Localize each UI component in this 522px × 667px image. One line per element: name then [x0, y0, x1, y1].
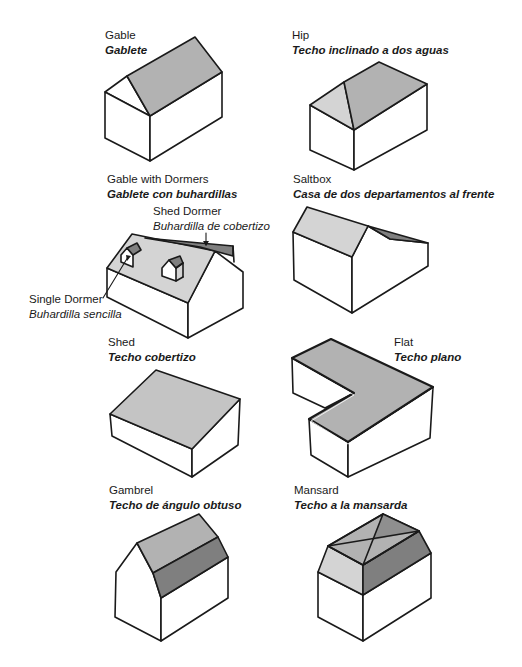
- label-gambrel-es: Techo de ángulo obtuso: [109, 498, 241, 513]
- label-shed: Shed Techo cobertizo: [108, 335, 196, 365]
- label-gable-es: Gablete: [105, 43, 147, 58]
- gable-dormers-house-illustration: [103, 233, 243, 338]
- label-shed-dormer: Shed Dormer Buhardilla de cobertizo: [153, 204, 270, 234]
- label-flat: Flat Techo plano: [394, 335, 461, 365]
- label-flat-en: Flat: [394, 335, 461, 350]
- label-gable-dormers-es: Gablete con buhardillas: [107, 187, 237, 202]
- label-single-dormer-en: Single Dormer: [29, 292, 122, 307]
- mansard-house-illustration: [318, 514, 431, 641]
- hip-house-illustration: [310, 62, 427, 170]
- label-mansard-en: Mansard: [294, 483, 407, 498]
- label-gambrel: Gambrel Techo de ángulo obtuso: [109, 483, 241, 513]
- label-shed-dormer-es: Buhardilla de cobertizo: [153, 219, 270, 234]
- saltbox-house-illustration: [293, 207, 428, 313]
- label-shed-dormer-en: Shed Dormer: [153, 204, 270, 219]
- label-hip: Hip Techo inclinado a dos aguas: [292, 28, 449, 58]
- label-single-dormer-es: Buhardilla sencilla: [29, 307, 122, 322]
- label-gable-dormers-en: Gable with Dormers: [107, 172, 237, 187]
- label-hip-en: Hip: [292, 28, 449, 43]
- label-saltbox-es: Casa de dos departamentos al frente: [293, 187, 494, 202]
- label-single-dormer: Single Dormer Buhardilla sencilla: [29, 292, 122, 322]
- label-flat-es: Techo plano: [394, 350, 461, 365]
- roof-types-diagram: [0, 0, 522, 667]
- label-saltbox-en: Saltbox: [293, 172, 494, 187]
- label-saltbox: Saltbox Casa de dos departamentos al fre…: [293, 172, 494, 202]
- label-gambrel-en: Gambrel: [109, 483, 241, 498]
- label-hip-es: Techo inclinado a dos aguas: [292, 43, 449, 58]
- label-gable-en: Gable: [105, 28, 147, 43]
- gambrel-house-illustration: [115, 514, 228, 641]
- label-gable-dormers: Gable with Dormers Gablete con buhardill…: [107, 172, 237, 202]
- label-shed-en: Shed: [108, 335, 196, 350]
- label-mansard: Mansard Techo a la mansarda: [294, 483, 407, 513]
- shed-house-illustration: [110, 370, 240, 477]
- label-shed-es: Techo cobertizo: [108, 350, 196, 365]
- label-mansard-es: Techo a la mansarda: [294, 498, 407, 513]
- label-gable: Gable Gablete: [105, 28, 147, 58]
